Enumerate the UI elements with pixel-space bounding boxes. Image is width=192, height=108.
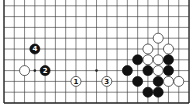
white-stone	[163, 44, 173, 54]
move-number-label: 3	[104, 78, 109, 86]
black-stone-circle	[133, 76, 143, 86]
white-stone-circle	[20, 66, 30, 76]
black-stone	[153, 76, 163, 86]
black-stone-circle	[153, 76, 163, 86]
black-stone	[122, 66, 132, 76]
black-stone-circle	[163, 66, 173, 76]
move-number-label: 4	[32, 45, 37, 53]
white-stone-move-1: 1	[71, 76, 81, 86]
black-stone-circle	[122, 66, 132, 76]
white-stone	[163, 76, 173, 86]
white-stone-circle	[153, 55, 163, 65]
black-stone-move-2: 2	[40, 66, 50, 76]
white-stone-circle	[153, 66, 163, 76]
go-board: 2413	[0, 0, 192, 108]
black-stone	[163, 55, 173, 65]
white-stone	[174, 76, 184, 86]
white-stone-circle	[163, 76, 173, 86]
white-stone	[153, 55, 163, 65]
white-stone	[20, 66, 30, 76]
star-point	[34, 69, 37, 72]
star-point	[95, 69, 98, 72]
white-stone-circle	[143, 55, 153, 65]
move-number-label: 2	[43, 67, 48, 75]
black-stone-circle	[143, 87, 153, 97]
white-stone	[143, 44, 153, 54]
white-stone-move-3: 3	[102, 76, 112, 86]
black-stone-circle	[143, 66, 153, 76]
white-stone-circle	[163, 44, 173, 54]
white-stone	[153, 66, 163, 76]
black-stone-circle	[163, 55, 173, 65]
black-stone-circle	[153, 87, 163, 97]
black-stone-move-4: 4	[30, 44, 40, 54]
stones-layer: 2413	[20, 33, 184, 97]
white-stone	[153, 33, 163, 43]
white-stone-circle	[174, 76, 184, 86]
black-stone	[153, 87, 163, 97]
white-stone	[143, 55, 153, 65]
black-stone	[133, 55, 143, 65]
go-board-diagram: 2413	[0, 0, 192, 108]
white-stone-circle	[143, 44, 153, 54]
white-stone-circle	[153, 33, 163, 43]
black-stone	[143, 87, 153, 97]
black-stone	[143, 66, 153, 76]
black-stone	[163, 66, 173, 76]
move-number-label: 1	[74, 78, 79, 86]
black-stone-circle	[133, 55, 143, 65]
black-stone	[133, 76, 143, 86]
